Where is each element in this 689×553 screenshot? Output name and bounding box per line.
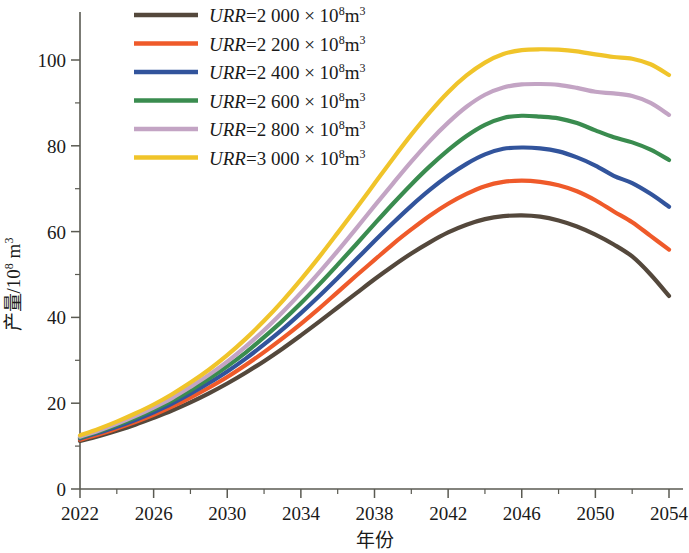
x-tick-label: 2046 xyxy=(503,503,541,524)
x-axis-title: 年份 xyxy=(356,530,394,551)
y-axis-title: 产量/108 m3 xyxy=(2,238,24,332)
y-tick-label: 40 xyxy=(47,307,66,328)
y-tick-label: 80 xyxy=(47,136,66,157)
production-forecast-line-chart: 0204060801002022202620302034203820422046… xyxy=(0,0,689,553)
x-tick-label: 2054 xyxy=(650,503,689,524)
chart-container: 0204060801002022202620302034203820422046… xyxy=(0,0,689,553)
x-tick-label: 2026 xyxy=(135,503,173,524)
y-tick-label: 20 xyxy=(47,393,66,414)
x-tick-label: 2038 xyxy=(356,503,394,524)
x-tick-label: 2030 xyxy=(208,503,246,524)
x-tick-label: 2022 xyxy=(61,503,99,524)
x-tick-label: 2042 xyxy=(429,503,467,524)
y-tick-label: 100 xyxy=(38,50,67,71)
x-tick-label: 2034 xyxy=(282,503,321,524)
y-tick-label: 60 xyxy=(47,222,66,243)
x-tick-label: 2050 xyxy=(576,503,614,524)
svg-text:产量/108 m3: 产量/108 m3 xyxy=(2,238,24,332)
y-tick-label: 0 xyxy=(57,479,67,500)
